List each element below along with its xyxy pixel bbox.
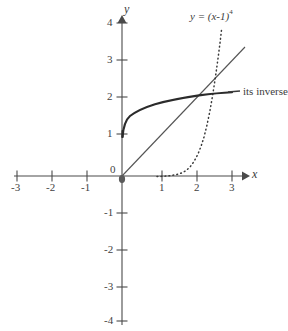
x-tick-label-2: 2 [194,182,200,193]
x-axis-label: x [252,168,257,180]
y-axis-label: y [124,3,129,15]
function-equation-text: y = (x-1) [190,10,229,22]
y-tick-label-neg4: -4 [104,315,113,326]
function-equation-label: y = (x-1)4 [190,10,233,22]
y-tick-label-1: 1 [107,128,113,139]
x-tick-label-3: 3 [229,182,235,193]
inverse-label-leader-line [228,91,240,92]
origin-point-marker [119,175,125,183]
inverse-curve-solid [123,92,233,137]
y-tick-label-2: 2 [107,91,113,102]
origin-tick-label: 0 [110,164,116,175]
graph-figure: x y 0 -3 -2 -1 1 2 3 4 3 2 1 -1 -2 -3 -4… [0,0,288,331]
x-axis [14,171,250,182]
coordinate-plane [0,0,288,331]
x-tick-label-neg1: -1 [81,182,90,193]
y-tick-label-neg2: -2 [104,244,113,255]
x-tick-label-neg2: -2 [46,182,55,193]
y-tick-label-neg3: -3 [104,281,113,292]
y-axis [117,15,128,325]
identity-line [122,47,245,176]
inverse-curve-label: its inverse [243,86,288,97]
x-tick-label-1: 1 [159,182,165,193]
y-tick-label-neg1: -1 [104,207,113,218]
function-equation-exponent: 4 [229,8,233,16]
y-tick-label-4: 4 [107,17,113,28]
function-curve-dotted [157,30,222,177]
x-tick-label-neg3: -3 [11,182,20,193]
y-tick-label-3: 3 [107,54,113,65]
